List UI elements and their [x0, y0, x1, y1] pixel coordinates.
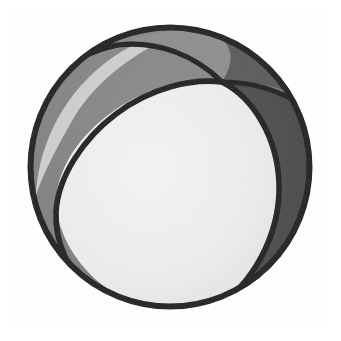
image-canvas: Beach ball Scanned grayscale line drawin…	[0, 0, 341, 341]
beach-ball-illustration	[0, 0, 341, 341]
